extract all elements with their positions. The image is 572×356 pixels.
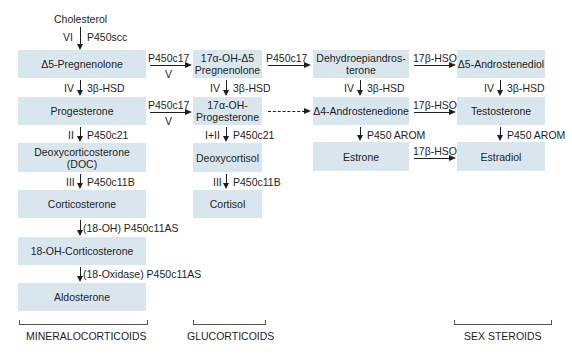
enzyme-num-v: V <box>165 68 172 80</box>
enzyme-name: 3β-HSD <box>507 82 545 94</box>
arrow-h-shaft <box>414 65 450 66</box>
box-progesterone: Progesterone <box>18 97 146 125</box>
arrow-c3-2-head <box>357 135 363 141</box>
arrow-c1-2-head <box>77 136 83 142</box>
box-pregnenolone: Δ5-Pregnenolone <box>18 50 146 78</box>
group-label-mineralocorticoids: MINERALOCORTICOIDS <box>26 330 147 342</box>
enzyme-name: 3β-HSD <box>367 82 405 94</box>
enzyme-name: P450c11B <box>233 176 281 188</box>
enzyme-num: IV <box>344 82 354 94</box>
bracket-sex-steroids <box>454 320 552 325</box>
box-line: 17α-OH-Δ5 <box>201 52 254 64</box>
enzyme-name: P450 AROM <box>367 129 425 141</box>
box-progesterone-text: Progesterone <box>50 105 113 117</box>
arrow-h-shaft <box>150 65 186 66</box>
box-estrone-text: Estrone <box>343 151 379 163</box>
box-cortisol-text: Cortisol <box>210 198 246 210</box>
enzyme-name: 3β-HSD <box>233 82 271 94</box>
box-deoxycortisol-text: Deoxycortisol <box>196 152 259 164</box>
arrow-h-head <box>185 62 192 68</box>
enzyme-num: I+II <box>205 129 220 141</box>
arrow-h-head <box>304 62 311 68</box>
arrow-cholesterol-shaft <box>80 27 81 45</box>
group-label-sex-steroids: SEX STEROIDS <box>464 330 542 342</box>
box-doc-text: Deoxycorticosterone (DOC) <box>18 146 146 170</box>
enzyme-name: 3β-HSD <box>87 82 125 94</box>
group-label-glucocorticoids: GLUCORTICOIDS <box>187 330 274 342</box>
box-androstenedione: Δ4-Androstenedione <box>313 97 409 125</box>
enzyme-name: P450 AROM <box>507 129 565 141</box>
box-testosterone-text: Testosterone <box>471 105 531 117</box>
box-androstenedione-text: Δ4-Androstenedione <box>313 105 409 117</box>
arrow-h-shaft <box>268 65 305 66</box>
box-aldosterone: Aldosterone <box>18 283 146 311</box>
enzyme-name: P450c21 <box>233 129 274 141</box>
enzyme-num-vi: VI <box>63 31 73 43</box>
enzyme-name: P450c11B <box>87 176 135 188</box>
arrow-c2-3-head <box>223 183 229 189</box>
box-doc: Deoxycorticosterone (DOC) <box>18 143 146 172</box>
enzyme-name: (18-Oxidase) P450c11AS <box>83 268 201 280</box>
arrow-h-shaft <box>414 158 450 159</box>
enzyme-name: (18-OH) P450c11AS <box>83 222 179 234</box>
enzyme-num: III <box>66 176 75 188</box>
enzyme-num: III <box>213 176 222 188</box>
cholesterol-label: Cholesterol <box>54 13 107 25</box>
arrow-h-shaft <box>150 112 186 113</box>
enzyme-p450c17: P450c17 <box>148 99 189 111</box>
arrow-h-head <box>449 109 456 115</box>
bracket-mineralocorticoids <box>19 320 148 325</box>
arrow-c1-3-head <box>77 183 83 189</box>
enzyme-num: II <box>68 129 74 141</box>
arrow-h-shaft <box>414 112 450 113</box>
arrow-h-head <box>449 155 456 161</box>
box-line: Progesterone <box>196 111 259 123</box>
enzyme-p450c17: P450c17 <box>148 52 189 64</box>
box-line: 17α-OH- <box>207 99 248 111</box>
box-corticosterone-text: Corticosterone <box>48 198 116 210</box>
box-line: Dehydroepiandros- <box>316 52 405 64</box>
box-line: Pregnenolone <box>195 64 260 76</box>
arrow-dashed-shaft <box>268 111 305 112</box>
box-17oh-progesterone: 17α-OH- Progesterone <box>193 97 262 125</box>
box-17oh-pregnenolone: 17α-OH-Δ5 Pregnenolone <box>193 50 262 78</box>
box-estrone: Estrone <box>313 142 409 171</box>
box-cortisol: Cortisol <box>193 190 262 218</box>
arrow-c2-2-head <box>223 136 229 142</box>
enzyme-num: IV <box>64 82 74 94</box>
box-androstenediol: Δ5-Androstenediol <box>457 50 545 78</box>
arrow-c3-1-head <box>357 90 363 96</box>
box-line: terone <box>346 64 376 76</box>
enzyme-num-v: V <box>165 115 172 127</box>
arrow-c1-1-head <box>77 90 83 96</box>
enzyme-num: IV <box>210 82 220 94</box>
enzyme-p450c17: P450c17 <box>266 52 307 64</box>
enzyme-p450scc: P450scc <box>87 31 127 43</box>
box-18oh-corticosterone: 18-OH-Corticosterone <box>18 237 146 265</box>
arrow-dashed-head <box>304 108 311 114</box>
box-dhea: Dehydroepiandros- terone <box>313 50 409 78</box>
arrow-h-head <box>185 109 192 115</box>
box-pregnenolone-text: Δ5-Pregnenolone <box>41 58 123 70</box>
enzyme-num: IV <box>484 82 494 94</box>
arrow-c2-1-head <box>223 90 229 96</box>
arrow-h-head <box>449 62 456 68</box>
box-androstenediol-text: Δ5-Androstenediol <box>458 58 544 70</box>
box-estradiol-text: Estradiol <box>481 151 522 163</box>
bracket-glucocorticoids <box>193 320 266 325</box>
box-18oh-corticosterone-text: 18-OH-Corticosterone <box>31 245 134 257</box>
arrow-c4-2-head <box>497 135 503 141</box>
box-testosterone: Testosterone <box>457 97 545 125</box>
box-deoxycortisol: Deoxycortisol <box>193 143 262 172</box>
enzyme-name: P450c21 <box>87 129 128 141</box>
box-estradiol: Estradiol <box>457 142 545 171</box>
arrow-c4-1-head <box>497 90 503 96</box>
box-aldosterone-text: Aldosterone <box>54 291 110 303</box>
box-corticosterone: Corticosterone <box>18 190 146 218</box>
